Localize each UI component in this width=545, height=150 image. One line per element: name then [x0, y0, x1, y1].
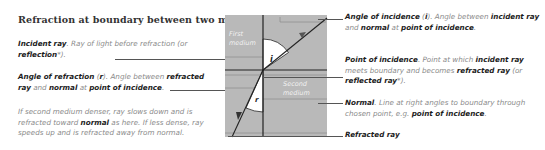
term-refracted-ray: refracted ray	[457, 66, 510, 75]
title-text: Refraction at boundary between two media	[18, 14, 251, 25]
note-point-of-incidence: Point of incidence. Point at which incid…	[345, 55, 525, 87]
term-point-of-incidence: point of incidence	[89, 83, 162, 92]
term-incident-ray: Incident ray	[18, 39, 66, 48]
term-point-of-incidence: point of incidence	[401, 23, 474, 32]
leader-line-angle-of-incidence	[318, 19, 343, 20]
term-incident-ray: incident ray	[491, 12, 539, 21]
term-reflected-ray: reflected ray	[345, 76, 397, 85]
note-text: at	[77, 83, 89, 92]
note-text: .	[484, 109, 486, 118]
note-text: .	[474, 23, 476, 32]
note-text: meets boundary and becomes	[345, 66, 457, 75]
note-text: . Point at which	[418, 55, 476, 64]
note-text: (or	[510, 66, 522, 75]
leader-line-refracted-ray	[228, 136, 343, 137]
leader-line-normal	[318, 103, 343, 104]
label-angle-r: r	[255, 96, 259, 104]
term-normal: Normal	[345, 98, 374, 107]
note-text: *).	[397, 76, 406, 85]
term-normal: normal	[49, 83, 77, 92]
note-text: .	[162, 83, 164, 92]
term-angle-of-refraction: Angle of refraction	[18, 72, 94, 81]
label-second-medium-2: medium	[283, 89, 310, 97]
label-first-medium: First	[229, 30, 244, 38]
term-point-of-incidence: point of incidence	[412, 109, 485, 118]
label-first-medium-2: medium	[229, 39, 256, 47]
note-text: ). Angle between	[103, 72, 166, 81]
term-reflection: reflection	[18, 50, 57, 59]
note-text: and	[31, 83, 49, 92]
term-angle-of-incidence: Angle of incidence	[345, 12, 420, 21]
note-text: *).	[57, 50, 66, 59]
label-angle-i: i	[270, 55, 273, 64]
term-incident-ray: incident ray	[476, 55, 524, 64]
note-text: at	[389, 23, 401, 32]
note-density-explanation: If second medium denser, ray slows down …	[18, 107, 218, 139]
note-refracted-ray: Refracted ray	[345, 130, 495, 141]
term-point-of-incidence: Point of incidence	[345, 55, 418, 64]
note-angle-of-incidence: Angle of incidence (i). Angle between in…	[345, 12, 545, 33]
term-normal: normal	[81, 118, 109, 127]
note-normal: Normal. Line at right angles to boundary…	[345, 98, 545, 119]
label-second-medium: Second	[283, 80, 308, 88]
term-normal: normal	[361, 23, 389, 32]
note-incident-ray: Incident ray. Ray of light before refrac…	[18, 39, 198, 60]
note-text: . Ray of light before refraction (or	[66, 39, 187, 48]
note-text: ). Angle between	[427, 12, 490, 21]
note-text: and	[345, 23, 361, 32]
term-refracted-ray: Refracted ray	[345, 130, 400, 139]
leader-line-point-of-incidence	[263, 77, 343, 78]
